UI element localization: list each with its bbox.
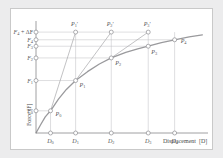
x-tick-marker-x0 [49, 131, 53, 135]
y-tick-label-y2: F2 [27, 55, 33, 62]
point-label-P2p: P2′ [107, 21, 114, 28]
data-point-markers [34, 30, 177, 135]
y-tick-marker-y3 [34, 44, 38, 48]
x-tick-marker-x1 [74, 131, 78, 135]
y-tick-label-y3: F3 [27, 43, 33, 50]
y-axis-title: Force [F] [26, 104, 32, 127]
marker-P3 [146, 44, 150, 48]
y-tick-marker-y0 [34, 109, 38, 113]
x-tick-marker-x3 [146, 131, 150, 135]
point-label-P1: P1 [80, 82, 86, 89]
force-displacement-curve [36, 35, 202, 133]
x-tick-label-x3: D3 [145, 138, 152, 145]
y-tick-marker-y4 [34, 38, 38, 42]
x-tick-label-x1: D1 [72, 138, 79, 145]
marker-P0 [49, 109, 53, 113]
x-tick-marker-x2 [109, 131, 113, 135]
marker-P1 [74, 79, 78, 83]
marker-P4 [173, 38, 177, 42]
marker-P3p [146, 30, 150, 34]
point-label-P1p: P1′ [71, 21, 78, 28]
point-label-P0: P0 [56, 111, 62, 118]
point-label-P2: P2 [115, 60, 121, 67]
marker-P2p [109, 30, 113, 34]
x-tick-marker-x4 [173, 131, 177, 135]
x-tick-label-x2: D2 [108, 138, 115, 145]
marker-P1p [74, 30, 78, 34]
force-displacement-figure: F4 + ΔFF4F3F2F1F0D0D1D2D3D4P0P1P2P3P4P1′… [0, 0, 223, 158]
point-label-P4: P4 [181, 38, 187, 45]
secant-lines [51, 32, 149, 111]
marker-P2 [109, 56, 113, 60]
point-label-P3: P3 [151, 49, 157, 56]
x-tick-label-x0: D0 [47, 138, 54, 145]
y-tick-marker-y5 [34, 30, 38, 34]
y-tick-marker-y1 [34, 79, 38, 83]
y-tick-label-y5: F4 + ΔF [14, 29, 33, 36]
y-tick-label-y1: F1 [27, 78, 33, 85]
x-axis-title: Displacement [D] [163, 138, 207, 144]
point-label-P3p: P3′ [144, 21, 151, 28]
y-tick-marker-y2 [34, 56, 38, 60]
